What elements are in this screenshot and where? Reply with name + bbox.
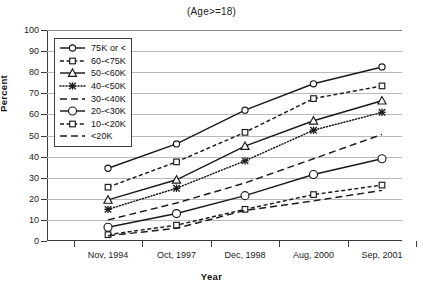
data-point-marker: [311, 96, 317, 102]
x-axis-tick: [348, 241, 349, 247]
y-axis-tick-label: 10: [29, 215, 39, 225]
y-axis-tick-label: 70: [29, 88, 39, 98]
legend-swatch-circle-icon: [59, 42, 86, 54]
legend-item-label: 75K or <: [91, 43, 126, 53]
x-axis-tick: [279, 241, 280, 247]
legend-swatch-circle-large-icon: [59, 105, 86, 117]
x-axis-tick: [416, 241, 417, 247]
legend-item-40-50k[interactable]: 40-<50K: [59, 80, 126, 93]
data-point-marker: [311, 192, 317, 198]
y-axis-title: Percent: [0, 75, 9, 112]
legend-item-30-40k[interactable]: 30-<40K: [59, 92, 126, 105]
data-point-marker: [104, 206, 111, 213]
data-point-marker: [310, 81, 316, 87]
data-point-marker: [379, 64, 385, 70]
series-line: [108, 67, 382, 168]
x-axis-tick-label: Sep, 2001: [361, 250, 402, 260]
y-axis-tick: [41, 241, 47, 242]
legend-item-label: <20K: [91, 131, 113, 141]
y-axis-tick-label: 60: [29, 109, 39, 119]
data-point-marker: [105, 165, 111, 171]
data-point-marker: [378, 109, 385, 116]
data-point-marker: [69, 82, 76, 89]
y-axis-tick-label: 90: [29, 46, 39, 56]
legend-item-20k[interactable]: <20K: [59, 130, 126, 143]
y-axis-tick-label: 30: [29, 173, 39, 183]
legend-swatch-triangle-icon: [59, 67, 86, 79]
data-point-marker: [172, 176, 180, 183]
data-point-marker: [242, 107, 248, 113]
legend-item-label: 20-<30K: [91, 106, 126, 116]
data-point-marker: [69, 107, 77, 115]
legend-item-10-20k[interactable]: 10-<20K: [59, 118, 126, 131]
legend-swatch-star-icon: [59, 80, 86, 92]
data-point-marker: [174, 159, 180, 165]
x-axis-tick-label: Dec, 1998: [224, 250, 265, 260]
data-point-marker: [105, 184, 111, 190]
x-axis-title: Year: [0, 271, 423, 282]
y-axis-tick-label: 100: [24, 25, 39, 35]
legend-swatch-none-icon: [59, 130, 86, 142]
legend-swatch-square-icon: [59, 55, 86, 67]
legend-item-20-30k[interactable]: 20-<30K: [59, 105, 126, 118]
legend-item-50-60k[interactable]: 50-<60K: [59, 67, 126, 80]
x-axis-tick-label: Oct, 1997: [157, 250, 196, 260]
legend-item-label: 30-<40K: [91, 94, 126, 104]
legend-item-label: 40-<50K: [91, 81, 126, 91]
legend-item-label: 60-<75K: [91, 56, 126, 66]
data-point-marker: [310, 171, 318, 179]
data-point-marker: [379, 182, 385, 188]
legend-item-75k-or[interactable]: 75K or <: [59, 42, 126, 55]
series-line: [108, 101, 382, 200]
data-point-marker: [69, 45, 75, 51]
legend-swatch-square-icon: [59, 118, 86, 130]
data-point-marker: [241, 192, 249, 200]
series-line: [108, 86, 382, 187]
legend-swatch-none-icon: [59, 93, 86, 105]
data-point-marker: [104, 223, 112, 231]
data-point-marker: [70, 58, 76, 64]
x-axis-tick: [142, 241, 143, 247]
data-point-marker: [378, 155, 386, 163]
x-axis-tick: [74, 241, 75, 247]
legend-item-label: 10-<20K: [91, 119, 126, 129]
data-point-marker: [173, 185, 180, 192]
data-point-marker: [173, 141, 179, 147]
data-point-marker: [242, 130, 248, 136]
y-axis-tick-label: 40: [29, 152, 39, 162]
data-point-marker: [105, 232, 111, 238]
data-point-marker: [70, 121, 76, 127]
x-axis-tick: [211, 241, 212, 247]
data-point-marker: [378, 97, 386, 104]
chart-container: (Age>=18) Percent Year 10090807060504030…: [0, 0, 423, 291]
data-point-marker: [173, 210, 181, 218]
x-axis-tick-label: Aug, 2000: [293, 250, 334, 260]
y-axis-tick-label: 50: [29, 131, 39, 141]
x-axis-tick-label: Nov, 1994: [88, 250, 128, 260]
y-axis-tick-label: 80: [29, 67, 39, 77]
y-axis-tick-label: 20: [29, 194, 39, 204]
chart-title: (Age>=18): [0, 6, 423, 17]
data-point-marker: [241, 157, 248, 164]
data-point-marker: [379, 83, 385, 89]
legend-item-60-75k[interactable]: 60-<75K: [59, 55, 126, 68]
y-axis-tick-label: 0: [34, 236, 39, 246]
chart-legend: 75K or <60-<75K50-<60K40-<50K30-<40K20-<…: [54, 38, 132, 147]
legend-item-label: 50-<60K: [91, 68, 126, 78]
data-point-marker: [310, 127, 317, 134]
